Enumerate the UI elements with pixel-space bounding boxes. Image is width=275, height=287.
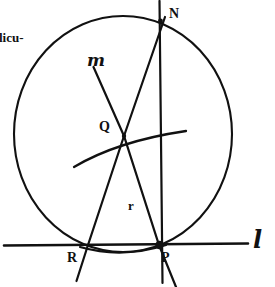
arc-through-q-shape (74, 131, 186, 167)
arc-below-l-shape (80, 245, 166, 253)
line-np-shape (160, 1, 163, 283)
figure-canvas (0, 0, 275, 287)
label-line-m: m (87, 52, 105, 69)
caption-fragment: licu- (0, 31, 24, 44)
label-line-l: l (253, 228, 262, 252)
label-point-q: Q (99, 120, 110, 134)
label-segment-r: r (128, 199, 134, 212)
label-point-r: R (67, 251, 77, 265)
line-l-shape (4, 244, 248, 246)
label-point-n: N (169, 7, 179, 21)
point-n-dot (158, 19, 163, 24)
point-q-dot (122, 134, 126, 138)
geometry-figure: licu- N m Q r R P l (0, 0, 275, 287)
label-point-p: P (161, 251, 170, 265)
point-p-dot (155, 241, 163, 249)
